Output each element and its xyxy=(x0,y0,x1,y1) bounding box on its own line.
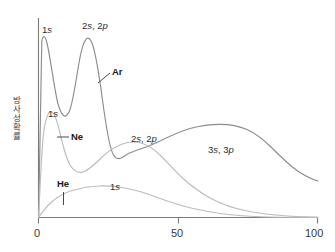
label-ne-name: Ne xyxy=(71,131,83,142)
label-he-1s: 1s xyxy=(110,181,120,192)
chart-plot-area xyxy=(0,0,335,252)
curve-he xyxy=(39,186,318,217)
label-ar-name: Ar xyxy=(112,66,123,77)
x-tick-label-50: 50 xyxy=(171,227,183,239)
label-ar-2s2p: 2s, 2p xyxy=(82,20,108,31)
curve-ar xyxy=(39,37,318,218)
label-ne-2s2p: 2s, 2p xyxy=(131,133,157,144)
label-ar-1s: 1s xyxy=(42,24,52,35)
label-ne-1s: 1s xyxy=(48,108,58,119)
y-axis-label: 방 사 성 확 률 xyxy=(6,96,28,141)
x-tick-label-0: 0 xyxy=(34,227,40,239)
x-tick-label-100: 100 xyxy=(305,227,323,239)
curve-ne xyxy=(39,112,318,218)
label-he-name: He xyxy=(57,178,69,189)
chart-figure: 방 사 성 확 률 0 50 100 1s 2s, 2p Ar 1s Ne 2s… xyxy=(0,0,335,252)
label-ar-3s3p: 3s, 3p xyxy=(208,144,234,155)
y-axis-label-char-5: 률 xyxy=(6,132,28,141)
